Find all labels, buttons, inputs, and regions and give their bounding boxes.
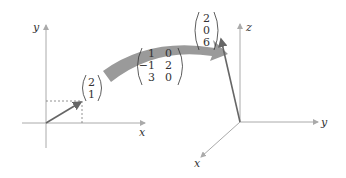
right-3d-axes: z y x 2 0 6: [194, 12, 328, 170]
left-paren: [83, 75, 87, 101]
y-axis-label: y: [320, 116, 328, 129]
matrix-cell: 3: [148, 71, 155, 84]
z-axis-label: z: [245, 21, 252, 34]
right-paren: [98, 75, 102, 101]
vector-2d: [46, 102, 81, 123]
left-2d-axes: x y 2 1: [22, 21, 146, 148]
transformation-matrix: 1 0 −1 2 3 0: [138, 46, 183, 86]
vector-3d: [221, 39, 240, 122]
x-axis-label: x: [194, 157, 201, 170]
vector-3d-entry: 6: [203, 36, 210, 49]
vector-2d-entry: 1: [88, 88, 95, 101]
linear-map-diagram: x y 2 1 1 0 −1 2 3 0 z y x 2 0 6: [0, 0, 346, 178]
y-axis-label: y: [32, 21, 40, 34]
matrix-cell: 0: [165, 71, 172, 84]
x-axis-label: x: [139, 126, 146, 139]
x-axis: [201, 122, 240, 157]
